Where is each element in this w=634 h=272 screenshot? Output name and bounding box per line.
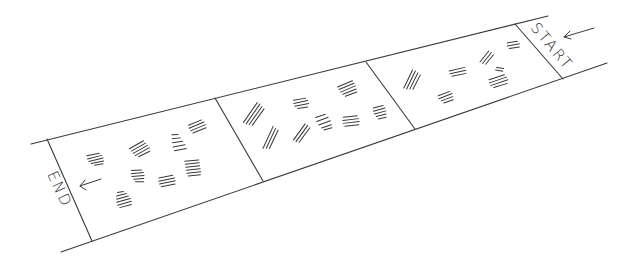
footprint-mark xyxy=(449,66,467,79)
footprint-mark xyxy=(86,149,106,169)
footprint-mark xyxy=(130,168,145,185)
footprint-mark xyxy=(244,102,266,128)
end-label-group: END xyxy=(43,168,75,210)
start-arrow-icon xyxy=(564,28,594,39)
footprint-mark xyxy=(263,126,279,151)
footprint-mark xyxy=(506,39,520,51)
footprint-mark xyxy=(114,189,133,209)
walkway-bottom-edge xyxy=(61,63,607,252)
footprint-mark xyxy=(158,174,176,188)
footprint-mark xyxy=(293,123,310,144)
footprint-mark xyxy=(485,65,510,90)
footprint-mark xyxy=(185,159,202,177)
footprint-mark xyxy=(315,112,334,133)
footprint-mark xyxy=(342,115,359,128)
section-2-footprints xyxy=(244,79,388,151)
section-divider-2 xyxy=(366,62,415,129)
diagram-canvas: START END xyxy=(0,0,634,272)
end-arrow-icon xyxy=(80,179,101,190)
footprint-mark xyxy=(404,69,421,92)
section-3-footprints xyxy=(404,39,521,106)
footprint-mark xyxy=(188,118,207,136)
footprint-mark xyxy=(372,104,388,120)
footprint-mark xyxy=(480,50,494,66)
footprint-mark xyxy=(293,96,310,111)
section-1-footprints xyxy=(86,118,207,209)
walkway-top-edge xyxy=(31,16,548,144)
footprint-mark xyxy=(338,79,359,99)
footprint-mark xyxy=(437,89,455,106)
end-label: END xyxy=(43,168,75,210)
footprint-mark xyxy=(129,138,151,160)
footprint-mark xyxy=(169,132,186,153)
